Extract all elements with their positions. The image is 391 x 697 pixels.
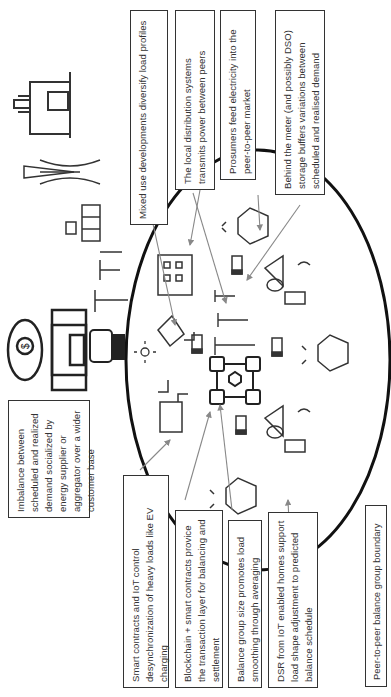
- annotation-text: Imbalance between scheduled and realized…: [11, 403, 89, 517]
- svg-text:$: $: [20, 343, 31, 349]
- power-plant-icon: [14, 72, 70, 138]
- annotation-balance-group-size: Balance group size promotes load smoothi…: [228, 520, 262, 688]
- bank-money-bag-icon: $: [8, 310, 86, 390]
- annotation-behind-meter: Behind the meter (and possibly DSO) stor…: [275, 10, 325, 195]
- prosumer-house-icon: [210, 208, 348, 514]
- annotation-local-distribution: The local distribution systems transmits…: [175, 10, 215, 190]
- sun-icon: [134, 341, 156, 363]
- solar-panel-icon: [158, 316, 194, 346]
- annotation-imbalance: Imbalance between scheduled and realized…: [8, 400, 90, 518]
- substation-icon: [66, 205, 100, 241]
- annotation-text: Balance group size promotes load smoothi…: [231, 523, 261, 687]
- blockchain-network-icon: [210, 357, 260, 404]
- annotation-smart-contracts-iot: Smart contracts and IoT control desynchr…: [123, 475, 169, 688]
- utility-pole-icon: [95, 252, 128, 312]
- transmission-tower-icon: [24, 160, 100, 184]
- boundary-label-text: Peer-to-peer balance group boundary: [367, 508, 387, 686]
- factory-icon: [158, 380, 188, 432]
- annotation-mixed-use: Mixed use developments diversify load pr…: [130, 10, 168, 225]
- annotation-prosumers: Prosumers feed electricity into the peer…: [220, 10, 256, 180]
- annotation-dsr: DSR from IoT enabled homes support load …: [268, 512, 318, 688]
- smart-meter-icon: [90, 330, 124, 362]
- annotation-text: Prosumers feed electricity into the peer…: [223, 13, 255, 179]
- annotation-text: DSR from IoT enabled homes support load …: [271, 515, 317, 687]
- utility-pole-icon: [215, 290, 255, 355]
- annotation-text: Behind the meter (and possibly DSO) stor…: [278, 13, 324, 194]
- annotation-text: Blockchain + smart contracts provice the…: [178, 513, 222, 687]
- annotation-text: The local distribution systems transmits…: [178, 13, 214, 189]
- office-building-icon: [158, 255, 192, 295]
- boundary-label: Peer-to-peer balance group boundary: [365, 505, 387, 687]
- annotation-text: Smart contracts and IoT control desynchr…: [126, 478, 168, 687]
- annotation-blockchain: Blockchain + smart contracts provice the…: [175, 510, 223, 688]
- annotation-text: Mixed use developments diversify load pr…: [133, 13, 167, 224]
